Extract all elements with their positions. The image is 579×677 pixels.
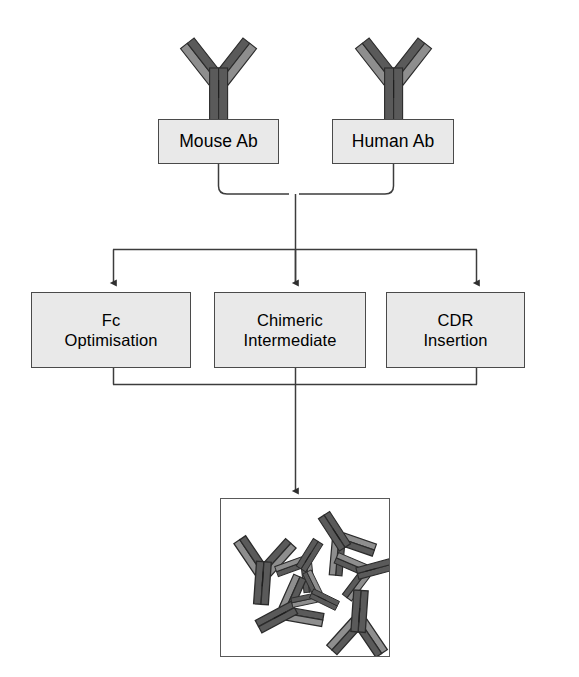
antibody-workflow-diagram: Mouse Ab Human Ab Fc Optimisation Chimer… bbox=[0, 0, 579, 677]
node-chimeric-intermediate-label: Chimeric Intermediate bbox=[244, 310, 337, 350]
node-fc-optimisation-label: Fc Optimisation bbox=[65, 310, 158, 350]
antibody-icon bbox=[353, 28, 434, 122]
brace-right-arm bbox=[299, 164, 394, 194]
node-cdr-insertion-label: CDR Insertion bbox=[423, 310, 487, 350]
node-human-ab[interactable]: Human Ab bbox=[332, 119, 454, 164]
node-humanised-antibody-pool[interactable] bbox=[220, 498, 390, 657]
node-human-ab-label: Human Ab bbox=[352, 131, 435, 152]
node-mouse-ab-label: Mouse Ab bbox=[179, 131, 258, 152]
antibody-icon bbox=[178, 28, 259, 122]
antibody-cluster-icon bbox=[221, 499, 390, 657]
brace-left-arm bbox=[219, 164, 290, 194]
node-chimeric-intermediate[interactable]: Chimeric Intermediate bbox=[214, 292, 366, 368]
node-cdr-insertion[interactable]: CDR Insertion bbox=[386, 292, 525, 368]
node-mouse-ab[interactable]: Mouse Ab bbox=[158, 119, 279, 164]
node-fc-optimisation[interactable]: Fc Optimisation bbox=[31, 292, 191, 368]
product-antibody bbox=[326, 588, 390, 657]
